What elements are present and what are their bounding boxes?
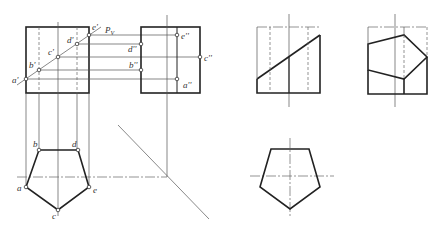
point-e xyxy=(87,185,91,189)
miter-line-45 xyxy=(118,125,209,219)
point-d-prime xyxy=(75,42,79,46)
point-d-dprime xyxy=(139,42,143,46)
point-c xyxy=(56,208,60,212)
result-side-section-pentagon xyxy=(368,35,427,79)
top-view: a b c d e xyxy=(17,125,209,221)
label-c-prime: c' xyxy=(48,47,55,57)
point-b-dprime xyxy=(139,68,143,72)
label-d: d xyxy=(72,139,77,149)
top-view-pentagon xyxy=(26,150,89,210)
front-view-outline xyxy=(26,27,89,93)
side-view: e'' d'' c'' b'' a'' xyxy=(128,15,213,177)
label-c: c xyxy=(52,211,56,221)
result-top-view xyxy=(250,138,334,218)
label-e: e xyxy=(93,185,97,195)
label-a-prime: a' xyxy=(12,75,20,85)
point-e-prime xyxy=(87,33,91,37)
label-c-dprime: c'' xyxy=(204,53,213,63)
point-a xyxy=(24,185,28,189)
label-b: b xyxy=(33,139,38,149)
label-e-dprime: e'' xyxy=(181,31,190,41)
point-c-prime xyxy=(56,55,60,59)
label-e-prime: e' xyxy=(92,22,99,32)
point-e-dprime xyxy=(175,33,179,37)
diagram-svg: a' b' c' d' e' PV e'' d'' c'' b'' a'' a … xyxy=(0,0,441,235)
projection-diagram: a' b' c' d' e' PV e'' d'' c'' b'' a'' a … xyxy=(0,0,441,235)
result-side-lower-outline xyxy=(368,57,427,94)
point-a-dprime xyxy=(175,77,179,81)
point-b-prime xyxy=(37,68,41,72)
front-view: a' b' c' d' e' PV xyxy=(12,22,200,216)
label-b-prime: b' xyxy=(29,60,37,70)
result-front-view xyxy=(257,14,320,107)
label-d-dprime: d'' xyxy=(128,44,137,54)
label-a: a xyxy=(17,183,22,193)
point-a-prime xyxy=(24,77,28,81)
label-a-dprime: a'' xyxy=(183,80,192,90)
result-side-view xyxy=(368,14,427,107)
label-b-dprime: b'' xyxy=(129,60,138,70)
label-d-prime: d' xyxy=(67,35,75,45)
point-d xyxy=(76,148,80,152)
point-c-dprime xyxy=(198,55,202,59)
point-b xyxy=(37,148,41,152)
label-pv: PV xyxy=(104,25,116,36)
